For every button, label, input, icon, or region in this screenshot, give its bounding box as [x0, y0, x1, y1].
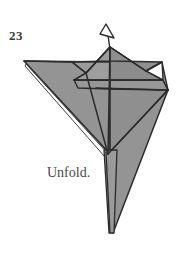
unfold-arrow: [100, 24, 114, 50]
paper-body-group: [24, 47, 168, 233]
unfold-arrowhead-icon: [100, 24, 114, 38]
crease-left-wing-top-edge: [24, 61, 110, 62]
origami-diagram-page: 23 Unfold.: [0, 0, 185, 259]
step-caption: Unfold.: [47, 166, 90, 180]
origami-model-illustration: [0, 0, 185, 259]
step-number: 23: [9, 29, 23, 42]
